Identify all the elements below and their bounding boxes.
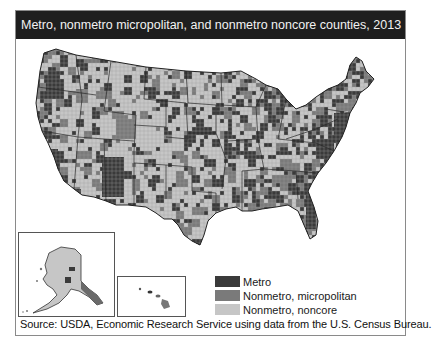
county-cell bbox=[372, 163, 376, 167]
county-cell bbox=[376, 43, 384, 51]
county-cell bbox=[308, 51, 312, 55]
county-cell bbox=[368, 151, 372, 155]
county-cell bbox=[304, 47, 312, 55]
county-cell bbox=[48, 215, 52, 219]
alaska-island bbox=[36, 280, 38, 282]
county-cell bbox=[384, 91, 392, 99]
county-cell bbox=[348, 231, 352, 235]
county-cell bbox=[352, 127, 356, 131]
county-cell bbox=[392, 127, 400, 135]
county-cell bbox=[236, 267, 240, 271]
county-cell bbox=[396, 147, 400, 151]
county-cell bbox=[384, 55, 392, 63]
county-cell bbox=[388, 123, 396, 131]
county-cell bbox=[304, 243, 308, 247]
county-cell bbox=[288, 71, 296, 79]
county-cell bbox=[384, 159, 388, 163]
county-cell bbox=[240, 247, 244, 251]
legend-swatch-noncore bbox=[215, 304, 240, 315]
county-cell bbox=[124, 223, 128, 227]
county-cell bbox=[376, 39, 380, 43]
county-cell bbox=[232, 243, 236, 247]
county-cell bbox=[348, 223, 352, 227]
county-cell bbox=[340, 263, 344, 267]
county-cell bbox=[52, 175, 56, 179]
county-cell bbox=[356, 115, 360, 119]
county-cell bbox=[372, 103, 376, 107]
county-cell bbox=[380, 255, 384, 259]
county-cell bbox=[20, 215, 24, 219]
legend-item-noncore: Nonmetro, noncore bbox=[215, 303, 357, 316]
county-cell bbox=[360, 159, 368, 167]
county-cell bbox=[404, 239, 405, 243]
county-cell bbox=[232, 43, 240, 51]
county-cell bbox=[36, 47, 44, 55]
county-cell bbox=[364, 163, 368, 167]
county-cell bbox=[24, 191, 28, 195]
county-cell bbox=[340, 203, 344, 207]
county-cell bbox=[164, 219, 172, 227]
county-cell bbox=[340, 195, 344, 199]
county-cell bbox=[388, 255, 396, 263]
county-cell bbox=[236, 55, 244, 63]
county-cell bbox=[380, 259, 384, 263]
county-cell bbox=[344, 187, 348, 191]
county-cell bbox=[324, 191, 328, 195]
county-cell bbox=[348, 191, 356, 199]
county-cell bbox=[300, 267, 304, 271]
county-cell bbox=[128, 263, 132, 267]
county-cell bbox=[240, 215, 244, 219]
county-cell bbox=[208, 63, 216, 71]
county-cell bbox=[384, 147, 388, 151]
county-cell bbox=[28, 211, 36, 219]
county-cell bbox=[364, 271, 372, 275]
county-cell bbox=[28, 159, 32, 163]
county-cell bbox=[220, 47, 228, 55]
county-cell bbox=[324, 223, 328, 227]
county-cell bbox=[328, 159, 336, 167]
county-cell bbox=[140, 215, 144, 219]
county-cell bbox=[380, 163, 384, 167]
county-cell bbox=[400, 239, 404, 243]
alaska-metro-anchorage bbox=[65, 277, 71, 283]
county-cell bbox=[364, 215, 368, 219]
county-cell bbox=[348, 215, 352, 219]
county-cell bbox=[364, 59, 368, 63]
county-cell bbox=[360, 171, 368, 179]
county-cell bbox=[388, 63, 392, 67]
county-cell bbox=[16, 143, 20, 147]
county-cell bbox=[228, 43, 236, 51]
county-cell bbox=[300, 251, 308, 259]
county-cell bbox=[264, 75, 272, 83]
county-cell bbox=[188, 55, 192, 59]
county-cell bbox=[336, 199, 340, 203]
county-cell bbox=[400, 59, 404, 63]
county-cell bbox=[392, 183, 396, 187]
county-cell bbox=[368, 187, 376, 195]
county-cell bbox=[260, 47, 264, 51]
county-cell bbox=[392, 235, 400, 243]
county-cell bbox=[212, 231, 216, 235]
county-cell bbox=[324, 207, 332, 215]
county-cell bbox=[336, 267, 344, 275]
county-cell bbox=[324, 227, 328, 231]
county-cell bbox=[352, 207, 360, 215]
county-cell bbox=[380, 55, 384, 59]
county-cell bbox=[24, 123, 32, 131]
county-cell bbox=[348, 123, 352, 127]
county-cell bbox=[236, 39, 240, 43]
map-figure: Metro, nonmetro micropolitan, and nonmet… bbox=[15, 10, 406, 336]
county-cell bbox=[404, 179, 405, 187]
county-cell bbox=[340, 235, 344, 239]
county-cell bbox=[32, 71, 36, 75]
county-cell bbox=[192, 51, 200, 59]
county-cell bbox=[156, 47, 160, 51]
county-cell bbox=[324, 215, 328, 219]
county-cell bbox=[20, 183, 24, 187]
county-cell bbox=[380, 111, 384, 115]
county-cell bbox=[176, 63, 180, 67]
county-cell bbox=[76, 215, 80, 219]
county-cell bbox=[32, 207, 40, 215]
county-cell bbox=[80, 203, 88, 211]
county-cell bbox=[204, 55, 208, 59]
